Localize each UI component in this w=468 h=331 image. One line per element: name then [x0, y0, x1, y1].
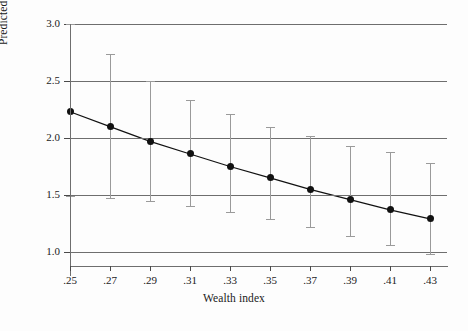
- x-tick-label: .35: [250, 274, 290, 286]
- x-tick-mark: [390, 266, 391, 271]
- data-point: [267, 174, 274, 181]
- y-axis-line: [70, 24, 71, 276]
- data-point: [427, 215, 434, 222]
- error-bar-cap: [186, 100, 195, 101]
- error-bar-cap: [186, 206, 195, 207]
- error-bar-cap: [266, 219, 275, 220]
- data-point: [187, 150, 194, 157]
- series-polyline: [70, 112, 430, 219]
- error-bar-cap: [426, 254, 435, 255]
- x-tick-label: .41: [370, 274, 410, 286]
- x-axis-line: [70, 266, 448, 267]
- y-tick-label: 3.0: [46, 18, 60, 29]
- data-point: [147, 138, 154, 145]
- error-bar-stem: [430, 163, 431, 254]
- data-point: [387, 206, 394, 213]
- error-bar-cap: [226, 212, 235, 213]
- error-bar-cap: [106, 198, 115, 199]
- error-bar-cap: [426, 163, 435, 164]
- x-tick-mark: [350, 266, 351, 271]
- error-bar-stem: [270, 127, 271, 219]
- y-tick-label: 2.0: [46, 132, 60, 143]
- gridline-y: [70, 24, 447, 25]
- data-point: [107, 123, 114, 130]
- gridline-y: [70, 81, 447, 82]
- error-bar-cap: [306, 136, 315, 137]
- data-point: [347, 196, 354, 203]
- x-tick-label: .25: [50, 274, 90, 286]
- x-axis-title: Wealth index: [0, 292, 468, 304]
- error-bar-cap: [346, 236, 355, 237]
- data-point: [307, 186, 314, 193]
- x-tick-label: .33: [210, 274, 250, 286]
- error-bar-cap: [266, 127, 275, 128]
- error-bar-cap: [226, 114, 235, 115]
- y-axis-title: Predicted count of caravans: [0, 0, 9, 60]
- chart-figure: Predicted count of caravans Wealth index…: [0, 0, 468, 331]
- x-tick-label: .31: [170, 274, 210, 286]
- error-bar-stem: [310, 136, 311, 227]
- y-tick-label: 1.5: [46, 189, 60, 200]
- error-bar-cap: [106, 54, 115, 55]
- error-bar-cap: [146, 201, 155, 202]
- x-tick-mark: [70, 266, 71, 271]
- x-tick-mark: [310, 266, 311, 271]
- x-tick-label: .27: [90, 274, 130, 286]
- x-tick-mark: [430, 266, 431, 271]
- y-axis-title-text: Predicted count of caravans: [0, 0, 9, 60]
- x-tick-mark: [230, 266, 231, 271]
- x-tick-mark: [110, 266, 111, 271]
- error-bar-cap: [146, 81, 155, 82]
- x-tick-label: .29: [130, 274, 170, 286]
- x-tick-mark: [270, 266, 271, 271]
- error-bar-cap: [306, 227, 315, 228]
- x-tick-label: .37: [290, 274, 330, 286]
- plot-area: [70, 24, 447, 266]
- error-bar-cap: [386, 152, 395, 153]
- data-point: [227, 163, 234, 170]
- y-tick-label: 1.0: [46, 246, 60, 257]
- error-bar-stem: [390, 152, 391, 245]
- error-bar-cap: [346, 146, 355, 147]
- y-tick-label: 2.5: [46, 75, 60, 86]
- x-tick-mark: [190, 266, 191, 271]
- error-bar-cap: [386, 245, 395, 246]
- x-tick-label: .39: [330, 274, 370, 286]
- x-tick-mark: [150, 266, 151, 271]
- gridline-y: [70, 252, 447, 253]
- error-bar-stem: [350, 146, 351, 236]
- x-tick-label: .43: [410, 274, 450, 286]
- gridline-y: [70, 138, 447, 139]
